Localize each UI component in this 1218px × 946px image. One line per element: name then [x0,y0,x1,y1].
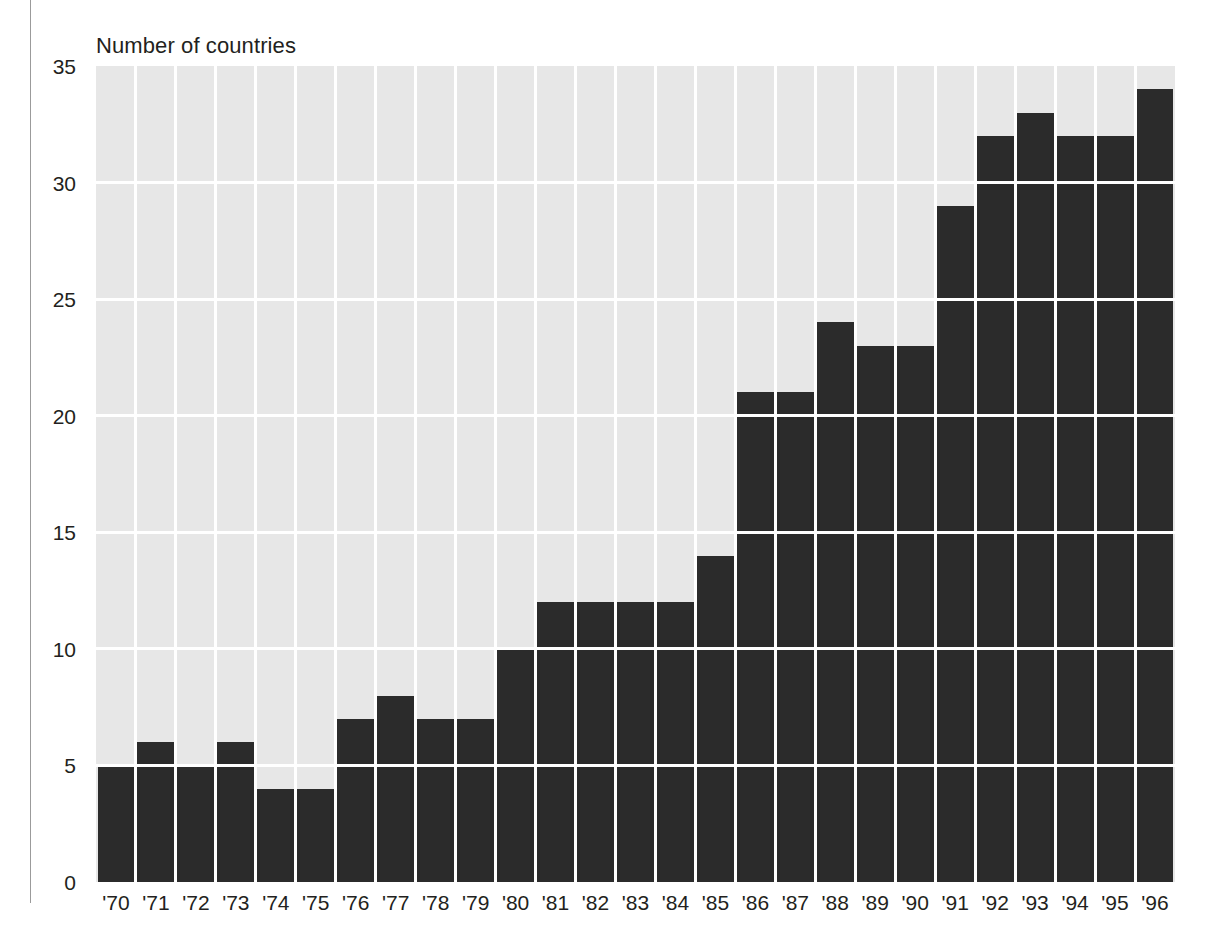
y-axis-tick-label: 25 [30,289,76,310]
bar [737,392,774,882]
y-axis: 05101520253035 [26,66,76,882]
x-axis-tick-label: '82 [576,890,616,916]
x-axis-tick-label: '92 [975,890,1015,916]
x-axis-tick-label: '90 [895,890,935,916]
y-axis-tick-label: 35 [30,56,76,77]
x-axis-tick-label: '91 [935,890,975,916]
bar [497,649,534,882]
bar [98,765,135,882]
x-axis-tick-label: '84 [655,890,695,916]
x-axis-tick-label: '83 [616,890,656,916]
x-axis-tick-label: '86 [735,890,775,916]
bar [617,602,654,882]
bar [377,696,414,883]
x-axis-tick-label: '79 [456,890,496,916]
bar [137,742,174,882]
bar [937,206,974,882]
y-axis-tick-label: 10 [30,639,76,660]
bar [777,392,814,882]
bar [977,136,1014,882]
x-axis-tick-label: '87 [775,890,815,916]
bar [537,602,574,882]
gridline-vertical [254,66,257,882]
chart-figure: Number of countries 05101520253035 '70'7… [0,0,1218,946]
chart-title: Number of countries [96,33,296,59]
plot-area [96,66,1175,882]
x-axis-tick-label: '88 [815,890,855,916]
x-axis-tick-label: '93 [1015,890,1055,916]
bar [1017,113,1054,882]
x-axis-tick-label: '72 [176,890,216,916]
x-axis-tick-label: '80 [496,890,536,916]
bar [457,719,494,882]
gridline-vertical [294,66,297,882]
x-axis-tick-label: '71 [136,890,176,916]
y-axis-tick-label: 5 [30,755,76,776]
bar [577,602,614,882]
bar [217,742,254,882]
x-axis-tick-label: '94 [1055,890,1095,916]
bar [257,789,294,882]
bar [857,346,894,882]
bar [337,719,374,882]
x-axis: '70'71'72'73'74'75'76'77'78'79'80'81'82'… [96,890,1175,930]
bar [1137,89,1174,882]
bar [1057,136,1094,882]
x-axis-tick-label: '75 [296,890,336,916]
bar [897,346,934,882]
y-axis-tick-label: 0 [30,872,76,893]
bar [297,789,334,882]
bar [1097,136,1134,882]
bar [417,719,454,882]
y-axis-tick-label: 20 [30,406,76,427]
x-axis-tick-label: '95 [1095,890,1135,916]
x-axis-tick-label: '81 [536,890,576,916]
gridline-vertical [174,66,177,882]
x-axis-tick-label: '70 [96,890,136,916]
bar [697,556,734,882]
x-axis-tick-label: '76 [336,890,376,916]
x-axis-tick-label: '73 [216,890,256,916]
bar [177,765,214,882]
bar [657,602,694,882]
x-axis-tick-label: '77 [376,890,416,916]
x-axis-tick-label: '89 [855,890,895,916]
x-axis-tick-label: '78 [416,890,456,916]
y-axis-tick-label: 15 [30,522,76,543]
bar [817,322,854,882]
x-axis-tick-label: '85 [695,890,735,916]
x-axis-tick-label: '96 [1135,890,1175,916]
x-axis-tick-label: '74 [256,890,296,916]
y-axis-tick-label: 30 [30,173,76,194]
